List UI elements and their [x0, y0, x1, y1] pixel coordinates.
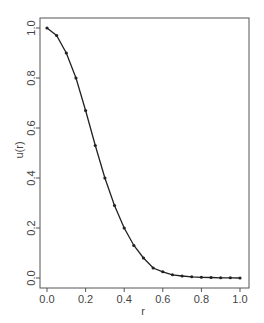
y-tick-label: 1.0: [25, 20, 37, 35]
x-tick-label: 1.0: [232, 293, 247, 305]
y-axis: 0.00.20.40.60.81.0: [25, 20, 40, 285]
x-tick-label: 0.6: [155, 293, 170, 305]
data-point: [171, 273, 174, 276]
data-point: [200, 276, 203, 279]
data-point: [161, 270, 164, 273]
x-axis-label: r: [141, 305, 145, 317]
data-point: [94, 144, 97, 147]
data-point: [84, 109, 87, 112]
data-point: [238, 276, 241, 279]
x-axis: 0.00.20.40.60.81.0: [39, 288, 247, 305]
data-point: [209, 276, 212, 279]
data-point: [55, 34, 58, 37]
plot-frame: [40, 18, 249, 288]
y-tick-label: 0.2: [25, 220, 37, 235]
data-point: [219, 276, 222, 279]
x-tick-label: 0.8: [194, 293, 209, 305]
y-tick-label: 0.0: [25, 270, 37, 285]
data-point: [132, 244, 135, 247]
y-tick-label: 0.6: [25, 120, 37, 135]
y-tick-label: 0.4: [25, 170, 37, 185]
data-point: [65, 51, 68, 54]
data-point: [74, 76, 77, 79]
x-tick-label: 0.0: [39, 293, 54, 305]
data-point: [142, 256, 145, 259]
data-line: [47, 28, 240, 278]
data-points: [45, 26, 241, 279]
x-tick-label: 0.4: [117, 293, 132, 305]
x-tick-label: 0.2: [78, 293, 93, 305]
data-point: [45, 26, 48, 29]
line-chart: 0.00.20.40.60.81.0 0.00.20.40.60.81.0 r …: [0, 0, 264, 323]
data-point: [181, 274, 184, 277]
data-point: [113, 204, 116, 207]
data-point: [103, 176, 106, 179]
data-point: [123, 226, 126, 229]
y-axis-label: u(r): [13, 141, 25, 158]
y-tick-label: 0.8: [25, 70, 37, 85]
data-point: [152, 266, 155, 269]
data-point: [229, 276, 232, 279]
data-point: [190, 275, 193, 278]
